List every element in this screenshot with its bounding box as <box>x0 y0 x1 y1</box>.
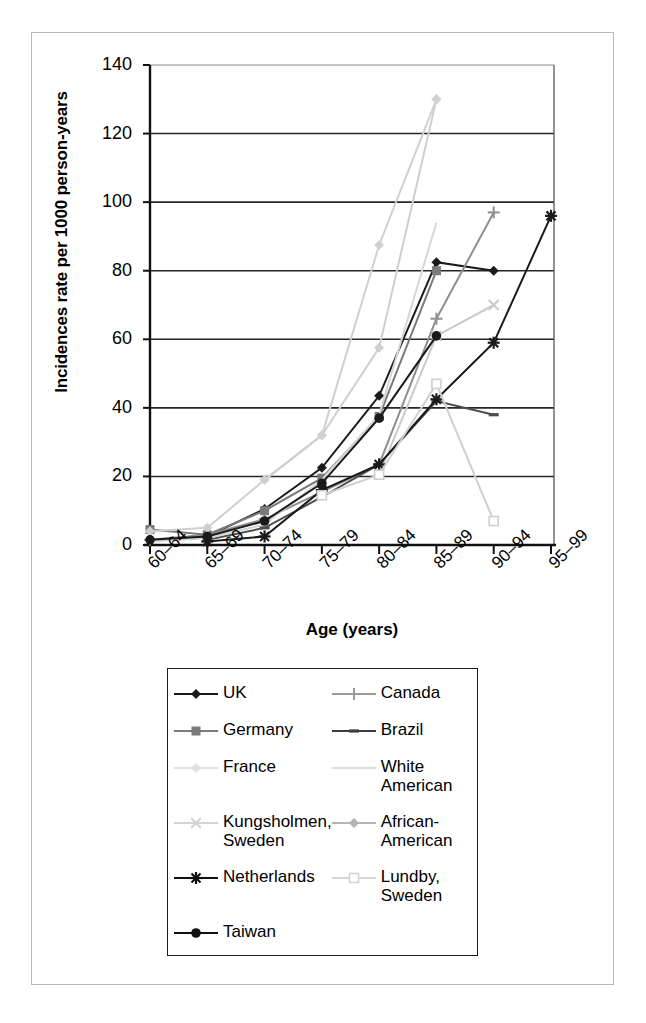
series-line <box>207 401 493 540</box>
chart-legend: UKCanadaGermanyBrazilFranceWhite America… <box>167 668 478 956</box>
legend-marker-open-square-icon <box>332 869 376 887</box>
marker-plus <box>488 206 500 218</box>
x-axis-label: Age (years) <box>150 620 554 640</box>
marker-filled-circle <box>260 516 270 526</box>
legend-marker-none-icon <box>332 759 376 777</box>
legend-item-uk[interactable]: UK <box>174 683 332 703</box>
series-line <box>207 216 551 542</box>
legend-label: Canada <box>381 683 441 702</box>
legend-label: UK <box>223 683 247 702</box>
legend-label: White American <box>381 757 471 795</box>
legend-label: Kungsholmen, Sweden <box>223 812 332 850</box>
marker-filled-square <box>432 266 441 275</box>
legend-marker-plus-icon <box>332 685 376 703</box>
legend-item-germany[interactable]: Germany <box>174 720 332 740</box>
legend-marker-filled-diamond-icon <box>174 685 218 703</box>
legend-item-france[interactable]: France <box>174 757 332 795</box>
legend-marker-light-x-icon <box>174 814 218 832</box>
marker-light-diamond <box>191 763 201 773</box>
marker-plus <box>348 688 360 700</box>
legend-label: Netherlands <box>223 867 315 886</box>
marker-light-diamond <box>374 240 384 250</box>
series-line <box>265 99 437 480</box>
legend-item-taiwan[interactable]: Taiwan <box>174 922 332 942</box>
marker-filled-circle <box>202 532 212 542</box>
legend-marker-light-diamond-icon <box>174 759 218 777</box>
marker-plus <box>430 313 442 325</box>
legend-label: France <box>223 757 276 776</box>
legend-item-brazil[interactable]: Brazil <box>332 720 471 740</box>
legend-marker-filled-circle-icon <box>174 924 218 942</box>
marker-light-x <box>191 818 201 828</box>
marker-open-square <box>432 379 441 388</box>
marker-filled-circle <box>432 331 442 341</box>
data-series-layer <box>144 94 557 547</box>
legend-item-canada[interactable]: Canada <box>332 683 471 703</box>
legend-label: Taiwan <box>223 922 276 941</box>
marker-filled-square <box>192 727 201 736</box>
marker-open-square <box>349 874 358 883</box>
series-line <box>150 271 436 535</box>
marker-filled-diamond <box>431 257 441 267</box>
legend-item-lundby-sweden[interactable]: Lundby, Sweden <box>332 867 471 905</box>
marker-star <box>545 210 557 222</box>
marker-light-diamond <box>431 94 441 104</box>
series-line <box>150 99 436 531</box>
marker-star <box>259 530 271 542</box>
marker-filled-square <box>260 506 269 515</box>
series-line <box>207 262 493 536</box>
legend-item-netherlands[interactable]: Netherlands <box>174 867 332 905</box>
marker-open-square <box>489 517 498 526</box>
marker-filled-diamond <box>191 689 201 699</box>
marker-filled-diamond <box>489 266 499 276</box>
legend-label: Lundby, Sweden <box>381 867 471 905</box>
legend-marker-light-diamond-icon <box>332 814 376 832</box>
legend-item-white-american[interactable]: White American <box>332 757 471 795</box>
figure-container: Incidences rate per 1000 person-years 02… <box>0 0 646 1023</box>
marker-filled-circle <box>145 535 155 545</box>
marker-open-square <box>317 491 326 500</box>
legend-marker-star-icon <box>174 869 218 887</box>
marker-light-x <box>489 300 499 310</box>
series-uk <box>202 257 498 541</box>
marker-light-diamond <box>374 343 384 353</box>
marker-open-square <box>375 470 384 479</box>
legend-item-kungsholmen-sweden[interactable]: Kungsholmen, Sweden <box>174 812 332 850</box>
marker-star <box>190 872 202 884</box>
legend-item-african-american[interactable]: African-American <box>332 812 471 850</box>
legend-marker-filled-square-icon <box>174 722 218 740</box>
legend-marker-dash-icon <box>332 722 376 740</box>
legend-label: Germany <box>223 720 293 739</box>
marker-filled-circle <box>317 478 327 488</box>
marker-light-diamond <box>349 818 359 828</box>
series-netherlands <box>201 210 557 548</box>
marker-star <box>488 337 500 349</box>
marker-filled-circle <box>374 413 384 423</box>
marker-filled-circle <box>191 928 201 938</box>
chart-plot-area: Incidences rate per 1000 person-years 02… <box>0 0 646 660</box>
series-france <box>145 94 441 536</box>
legend-grid: UKCanadaGermanyBrazilFranceWhite America… <box>168 669 477 955</box>
series-germany <box>146 266 441 539</box>
legend-label: African-American <box>381 812 471 850</box>
legend-label: Brazil <box>381 720 424 739</box>
